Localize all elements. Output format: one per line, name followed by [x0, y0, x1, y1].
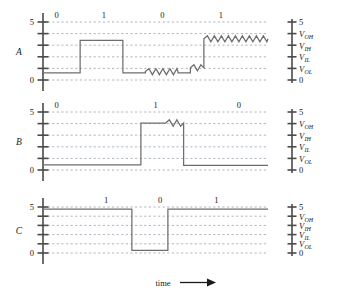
bit-label-A-3: 1 [219, 10, 223, 20]
left-axis-label-0-row-A: 0 [30, 75, 34, 85]
left-axis-label-0-row-C: 0 [30, 248, 34, 258]
right-axis-label-VOH-row-B: VOH [299, 119, 314, 130]
right-axis-label-0-row-C: 0 [299, 248, 303, 258]
right-axis-label-VOL-row-A: VOL [299, 64, 313, 75]
waveform-path-C [43, 209, 268, 250]
bit-label-C-2: 1 [214, 195, 218, 205]
bit-label-A-2: 0 [160, 10, 164, 20]
bit-label-A-0: 0 [54, 10, 58, 20]
left-axis-label-0-row-B: 0 [30, 165, 34, 175]
time-axis-label: time [155, 278, 170, 288]
right-axis-row-A: 5VOHVIHVILVOL0 [288, 17, 314, 85]
right-axis-label-0-row-B: 0 [299, 165, 303, 175]
bit-label-A-1: 1 [102, 10, 106, 20]
right-axis-label-VIL-row-A: VIL [299, 52, 311, 63]
right-axis-label-VIL-row-B: VIL [299, 142, 311, 153]
left-axis-label-5-row-C: 5 [30, 202, 34, 212]
waveform-path-A [43, 36, 268, 75]
logic-waveform-figure: 50A01015VOHVIHVILVOL050B0105VOHVIHVILVOL… [0, 0, 337, 297]
waveform-row-C: 50C1015VOHVIHVILVOL0 [16, 195, 314, 265]
left-axis-label-5-row-B: 5 [30, 107, 34, 117]
bit-label-C-1: 0 [158, 195, 162, 205]
right-axis-label-VIH-row-A: VIH [299, 41, 312, 52]
waveform-svg-canvas: 50A01015VOHVIHVILVOL050B0105VOHVIHVILVOL… [0, 0, 337, 297]
waveform-row-A: 50A01015VOHVIHVILVOL0 [15, 10, 314, 92]
right-axis-label-0-row-A: 0 [299, 75, 303, 85]
left-axis-label-5-row-A: 5 [30, 17, 34, 27]
row-label-B: B [16, 137, 22, 147]
time-arrow-head-icon [207, 279, 216, 287]
right-axis-row-B: 5VOHVIHVILVOL0 [288, 107, 314, 175]
right-axis-label-VOH-row-A: VOH [299, 29, 314, 40]
right-axis-label-VIH-row-B: VIH [299, 131, 312, 142]
row-label-C: C [16, 226, 23, 236]
bit-label-B-1: 1 [153, 100, 157, 110]
time-axis-label-group: time [155, 278, 216, 288]
bit-label-B-2: 0 [237, 100, 241, 110]
waveform-row-B: 50B0105VOHVIHVILVOL0 [16, 100, 314, 182]
bit-label-B-0: 0 [54, 100, 58, 110]
right-axis-label-5-row-A: 5 [299, 17, 303, 27]
right-axis-label-VOL-row-B: VOL [299, 154, 313, 165]
row-label-A: A [15, 47, 22, 57]
bit-label-C-0: 1 [104, 195, 108, 205]
right-axis-label-5-row-B: 5 [299, 107, 303, 117]
right-axis-row-C: 5VOHVIHVILVOL0 [288, 202, 314, 258]
